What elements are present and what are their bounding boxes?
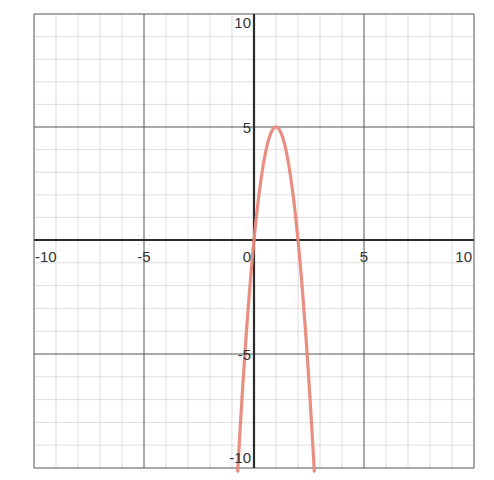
y-tick-label: 5: [243, 119, 251, 136]
y-tick-label: 10: [234, 14, 251, 31]
x-tick-label: 10: [455, 248, 472, 265]
y-tick-label: -5: [238, 346, 251, 363]
x-tick-label: 0: [243, 248, 251, 265]
y-tick-label: -10: [229, 449, 251, 466]
x-tick-label: -5: [137, 248, 150, 265]
x-tick-label: -10: [35, 248, 57, 265]
coordinate-plane: -10-50510105-5-10: [0, 0, 494, 480]
x-tick-label: 5: [360, 248, 368, 265]
